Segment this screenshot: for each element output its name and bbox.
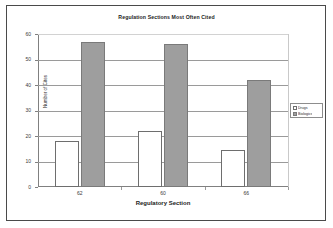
legend: Drugs Biologics [290, 103, 323, 118]
legend-label-series-1: Drugs [298, 106, 308, 110]
x-tick-label: 60 [143, 190, 183, 196]
y-tick-label: 30 [13, 108, 31, 113]
y-tick-label: 40 [13, 83, 31, 88]
gridline [38, 60, 288, 61]
x-tick-label: 66 [226, 190, 266, 196]
y-tick-mark [35, 85, 38, 86]
y-tick-mark [35, 187, 38, 188]
y-tick-label: 20 [13, 134, 31, 139]
chart-screenshot: Regulation Sections Most Often Cited Num… [0, 0, 333, 228]
legend-item-series-2: Biologics [293, 112, 322, 118]
bar-60-series-1 [138, 131, 162, 187]
x-tick-mark [121, 187, 122, 190]
legend-item-series-1: Drugs [293, 106, 322, 112]
y-tick-label: 0 [13, 185, 31, 190]
bar-62-series-1 [55, 141, 79, 187]
x-tick-mark [288, 187, 289, 190]
bar-60-series-2 [164, 44, 188, 187]
y-tick-mark [35, 34, 38, 35]
y-tick-mark [35, 162, 38, 163]
legend-swatch-icon-series-1 [293, 106, 297, 110]
bar-66-series-1 [221, 150, 245, 187]
x-tick-label: 62 [60, 190, 100, 196]
legend-label-series-2: Biologics [298, 112, 312, 116]
plot-right-border [288, 34, 289, 187]
bar-62-series-2 [81, 42, 105, 187]
y-tick-mark [35, 60, 38, 61]
y-tick-label: 60 [13, 32, 31, 37]
y-tick-label: 50 [13, 57, 31, 62]
legend-swatch-icon-series-2 [293, 112, 297, 116]
chart-title: Regulation Sections Most Often Cited [0, 14, 333, 20]
bar-66-series-2 [247, 80, 271, 187]
y-tick-mark [35, 111, 38, 112]
y-tick-mark [35, 136, 38, 137]
y-tick-label: 10 [13, 159, 31, 164]
x-axis-title: Regulatory Section [38, 200, 288, 206]
gridline [38, 34, 288, 35]
x-tick-mark [205, 187, 206, 190]
y-axis-title: Number of Cites [43, 52, 48, 132]
